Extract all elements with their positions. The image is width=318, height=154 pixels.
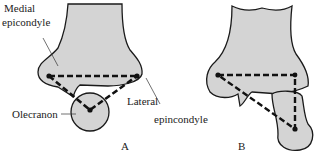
elbow-landmarks-diagram: Medial epicondyle Lateral epincondyle Ol…	[0, 0, 318, 154]
label-olecranon: Olecranon	[12, 108, 58, 120]
label-medial-line2: epicondyle	[2, 16, 50, 28]
panel-b-caption: B	[238, 140, 245, 152]
panel-b-bone	[207, 6, 313, 150]
olecranon-b	[272, 91, 313, 150]
label-lateral-line2: epincondyle	[154, 113, 208, 125]
label-medial-line1: Medial	[4, 2, 35, 14]
panel-a-caption: A	[121, 140, 129, 152]
label-lateral-line1: Lateral	[127, 95, 158, 107]
